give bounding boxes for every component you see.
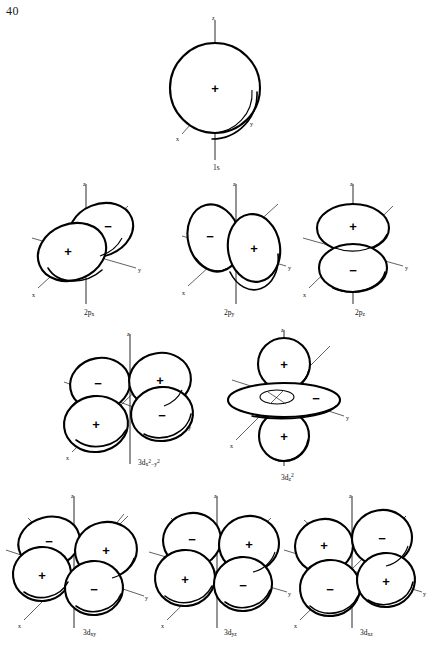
orbital-2pz-drawing: + − z y x [293, 180, 429, 310]
sign-lower-right: + [382, 574, 390, 589]
caption-sup-2b: 2 [157, 458, 160, 464]
orbital-3dx2-y2: − + + − z y x [50, 330, 202, 470]
sign-upper-right: + [102, 543, 110, 558]
caption-3dxy: 3dxy [83, 628, 96, 639]
sign-lower-left: + [38, 568, 46, 583]
caption-3dxz: 3dxz [360, 628, 373, 639]
page-number: 40 [6, 4, 19, 18]
caption-2px: 2px [84, 308, 94, 319]
caption-3dxz-main: 3d [360, 628, 368, 637]
sign-torus: − [312, 391, 320, 406]
sign-upper: + [349, 219, 357, 234]
sign-lower-left: + [181, 572, 189, 587]
axis-label-z: z [127, 331, 130, 337]
sign-bottom: + [280, 429, 288, 444]
figure-page: 40 + z y x 1s [0, 0, 429, 647]
axis-label-y: y [288, 265, 291, 271]
orbital-1s: + z y x [140, 14, 290, 174]
sign-upper-right: − [378, 531, 386, 546]
sign-lower-right: − [90, 582, 98, 597]
sign-sphere: + [211, 81, 219, 96]
axis-label-y: y [188, 425, 191, 431]
axis-label-x: x [32, 292, 35, 298]
axis-label-x: x [18, 623, 21, 629]
sign-upper-left: − [45, 534, 53, 549]
axis-label-z: z [71, 493, 74, 499]
axis-label-z: z [212, 15, 215, 21]
axis-label-x: x [66, 455, 69, 461]
sign-upper-left: − [94, 376, 102, 391]
caption-3dxy-main: 3d [83, 628, 91, 637]
orbital-2py: − + z y x [166, 180, 306, 310]
sign-upper-right: + [245, 537, 253, 552]
orbital-2py-drawing: − + z y x [166, 180, 306, 310]
caption-3dx2y2-main: 3d [138, 458, 146, 467]
caption-3dxz-sub: xz [368, 631, 373, 637]
caption-3dz2-main: 3d [281, 473, 289, 482]
sign-right: + [250, 241, 258, 256]
sign-front: + [64, 244, 72, 259]
caption-2px-sub: x [92, 311, 95, 317]
axis-label-z: z [233, 181, 236, 187]
caption-3dx2y2-sub: x2−y2 [146, 461, 160, 467]
caption-3dyz-sub: yz [232, 631, 237, 637]
caption-2px-main: 2p [84, 308, 92, 317]
axis-label-z: z [281, 328, 284, 333]
axis-label-z: z [349, 493, 352, 499]
sign-lower-left: + [92, 417, 100, 432]
sign-upper-left: + [320, 538, 328, 553]
orbital-3dxy-drawing: − + + − z y x [2, 492, 150, 632]
axis-label-x: x [303, 292, 306, 298]
orbital-3dxy: − + + − z y x [2, 492, 150, 632]
axis-label-x: x [230, 443, 233, 449]
caption-3dz2-sup: 2 [291, 472, 294, 478]
sign-back: − [104, 219, 112, 234]
orbital-3dyz: − + + − z y x [145, 492, 293, 632]
sign-upper-right: + [156, 373, 164, 388]
caption-2pz-main: 2p [355, 308, 363, 317]
orbital-3dxz-drawing: + − − + z y x [282, 492, 429, 632]
orbital-2px: + − z y x [18, 180, 158, 310]
torus-outer [228, 383, 340, 417]
axis-label-y: y [250, 121, 253, 127]
axis-label-x: x [294, 623, 297, 629]
axis-label-z: z [214, 493, 217, 499]
orbital-2px-drawing: + − z y x [18, 180, 158, 310]
caption-2py-main: 2p [224, 308, 232, 317]
orbital-3dx2y2-drawing: − + + − z y x [50, 330, 202, 470]
axis-label-y: y [423, 591, 426, 597]
sign-lower-right: − [158, 408, 166, 423]
sign-lower: − [349, 263, 357, 278]
sign-left: − [206, 229, 214, 244]
caption-1s-main: 1s [213, 163, 220, 172]
axis-label-y: y [138, 267, 141, 273]
sign-upper-left: − [188, 532, 196, 547]
axis-label-z: z [83, 181, 86, 187]
orbital-2pz: + − z y x [293, 180, 429, 310]
axis-label-x: x [161, 623, 164, 629]
orbital-3dz2: + + − z y x [222, 328, 362, 470]
caption-2py-sub: y [232, 311, 235, 317]
caption-3dz2: 3dz2 [281, 471, 294, 484]
orbital-1s-drawing: + z y x [140, 14, 290, 174]
caption-1s: 1s [213, 163, 220, 172]
axis-label-x: x [176, 136, 179, 142]
axis-label-y: y [405, 265, 408, 271]
axis-label-x: x [182, 290, 185, 296]
orbital-3dyz-drawing: − + + − z y x [145, 492, 293, 632]
caption-2py: 2py [224, 308, 234, 319]
caption-3dyz: 3dyz [224, 628, 237, 639]
sign-lower-right: − [239, 578, 247, 593]
sign-lower-left: − [326, 582, 334, 597]
caption-2pz: 2pz [355, 308, 365, 319]
caption-2pz-sub: z [363, 311, 365, 317]
orbital-3dxz: + − − + z y x [282, 492, 429, 632]
caption-3dyz-main: 3d [224, 628, 232, 637]
axis-label-z: z [350, 181, 353, 187]
caption-3dx2-y2: 3dx2−y2 [138, 457, 160, 469]
sign-top: + [280, 357, 288, 372]
orbital-3dz2-drawing: + + − z y x [222, 328, 362, 470]
caption-3dxy-sub: xy [91, 631, 97, 637]
axis-label-y: y [346, 415, 349, 421]
